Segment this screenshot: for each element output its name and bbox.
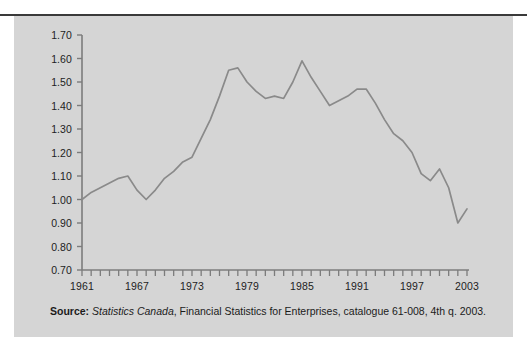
y-axis-tick-label: 0.90 <box>24 217 72 229</box>
source-publisher: Statistics Canada <box>92 305 174 317</box>
axis-group <box>77 35 469 276</box>
y-axis-tick-label: 1.30 <box>24 123 72 135</box>
data-series-group <box>82 61 467 223</box>
y-axis-tick-label: 1.40 <box>24 100 72 112</box>
x-axis-tick-label: 1997 <box>400 280 424 292</box>
source-label: Source: <box>50 305 89 317</box>
source-rest: , Financial Statistics for Enterprises, … <box>174 305 486 317</box>
figure-panel: 0.700.800.901.001.101.201.301.401.501.60… <box>14 16 513 337</box>
x-axis-tick-label: 1991 <box>345 280 369 292</box>
plot-area: 0.700.800.901.001.101.201.301.401.501.60… <box>14 16 513 291</box>
y-axis-tick-label: 1.70 <box>24 29 72 41</box>
data-line <box>82 61 467 223</box>
y-axis-tick-label: 1.20 <box>24 147 72 159</box>
x-axis-tick-label: 2003 <box>455 280 479 292</box>
y-axis-tick-label: 0.80 <box>24 241 72 253</box>
x-axis-tick-label: 1961 <box>70 280 94 292</box>
y-axis-tick-label: 1.10 <box>24 170 72 182</box>
figure-root: 0.700.800.901.001.101.201.301.401.501.60… <box>0 0 527 358</box>
y-axis-tick-label: 0.70 <box>24 264 72 276</box>
source-note: Source: Statistics Canada, Financial Sta… <box>50 304 501 318</box>
y-axis-tick-label: 1.00 <box>24 194 72 206</box>
y-axis-tick-label: 1.60 <box>24 53 72 65</box>
line-chart <box>14 16 513 291</box>
x-axis-tick-label: 1985 <box>290 280 314 292</box>
y-axis-tick-label: 1.50 <box>24 76 72 88</box>
x-axis-tick-label: 1979 <box>235 280 259 292</box>
x-axis-tick-label: 1967 <box>125 280 149 292</box>
x-axis-tick-label: 1973 <box>180 280 204 292</box>
